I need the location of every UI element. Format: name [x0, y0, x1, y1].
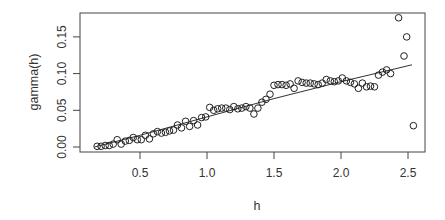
data-point	[186, 123, 193, 130]
data-point	[114, 136, 121, 143]
y-axis-title: gamma(h)	[27, 54, 41, 111]
data-point	[347, 79, 354, 86]
data-point	[410, 122, 417, 129]
data-point	[223, 105, 230, 112]
x-axis: 0.51.01.52.02.5	[132, 152, 417, 180]
y-tick-label: 0.00	[55, 135, 69, 159]
x-axis-title: h	[254, 199, 261, 213]
data-point	[291, 85, 298, 92]
data-point	[401, 53, 408, 60]
data-point	[194, 122, 201, 129]
data-point	[142, 132, 149, 139]
y-tick-label: 0.10	[55, 62, 69, 86]
y-axis: 0.000.050.100.15	[55, 25, 80, 159]
data-point	[247, 105, 254, 112]
data-point	[395, 14, 402, 21]
data-point	[387, 70, 394, 77]
data-points	[94, 14, 417, 149]
data-point	[315, 81, 322, 88]
plot-frame	[80, 13, 425, 152]
data-point	[295, 78, 302, 85]
data-point	[371, 84, 378, 91]
data-point	[138, 136, 145, 143]
data-point	[351, 81, 358, 88]
y-tick-label: 0.05	[55, 98, 69, 122]
data-point	[255, 105, 262, 112]
x-tick-label: 0.5	[132, 166, 149, 180]
data-point	[319, 80, 326, 87]
x-tick-label: 1.5	[266, 166, 283, 180]
data-point	[323, 76, 330, 83]
x-tick-label: 2.0	[333, 166, 350, 180]
data-point	[251, 111, 258, 118]
y-tick-label: 0.15	[55, 25, 69, 49]
data-point	[162, 129, 169, 136]
data-point	[359, 80, 366, 87]
data-point	[283, 82, 290, 89]
data-point	[287, 81, 294, 88]
x-tick-label: 1.0	[199, 166, 216, 180]
x-tick-label: 2.5	[400, 166, 417, 180]
data-point	[403, 34, 410, 41]
data-point	[267, 91, 274, 98]
semivariogram-chart: 0.51.01.52.02.5 0.000.050.100.15 h gamma…	[0, 0, 445, 220]
